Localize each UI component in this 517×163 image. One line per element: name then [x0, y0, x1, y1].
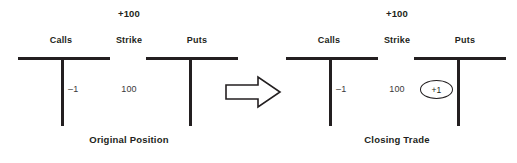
- t-account-stem: [329, 58, 332, 126]
- options-t-account-diagram: +100 Calls Strike Puts –1 100 Original P…: [0, 0, 517, 163]
- panel-caption-original-position: Original Position: [18, 134, 240, 145]
- right-arrow-icon: [224, 74, 282, 110]
- t-account-top-bar: [286, 57, 378, 60]
- strike-price-value: 100: [100, 84, 158, 94]
- t-account-stem: [61, 58, 64, 126]
- panel-caption-closing-trade: Closing Trade: [286, 134, 508, 145]
- panel-original-position: +100 Calls Strike Puts –1 100 Original P…: [18, 0, 240, 163]
- panel-closing-trade: +100 Calls Strike Puts –1 100 +1 Closing…: [286, 0, 508, 163]
- t-account-top-bar: [414, 57, 506, 60]
- t-account-stem: [457, 58, 460, 126]
- strike-price-value: 100: [368, 84, 426, 94]
- column-header-strike: Strike: [100, 35, 158, 45]
- strike-credit-label: +100: [286, 8, 508, 19]
- t-account-stem: [189, 58, 192, 126]
- column-header-calls: Calls: [32, 35, 90, 45]
- column-header-puts: Puts: [436, 35, 494, 45]
- column-header-row: Calls Strike Puts: [18, 35, 240, 49]
- puts-closing-entry-circled: +1: [420, 80, 453, 99]
- t-account-top-bar: [18, 57, 110, 60]
- column-header-calls: Calls: [300, 35, 358, 45]
- puts-closing-entry-value: +1: [420, 80, 453, 99]
- t-account-top-bar: [146, 57, 238, 60]
- column-header-row: Calls Strike Puts: [286, 35, 508, 49]
- strike-credit-label: +100: [18, 8, 240, 19]
- column-header-puts: Puts: [168, 35, 226, 45]
- column-header-strike: Strike: [368, 35, 426, 45]
